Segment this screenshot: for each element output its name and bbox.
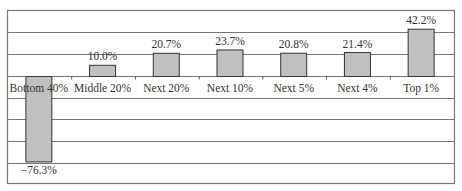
category-label: Next 10% [207,82,254,94]
category-label: Top 1% [403,82,439,95]
category-label: Next 5% [273,82,314,94]
category-labels: Bottom 40%Middle 20%Next 20%Next 10%Next… [10,82,440,95]
bars [26,29,434,162]
category-label: Middle 20% [74,82,132,94]
value-label: 10.0% [88,50,118,62]
category-label: Bottom 40% [10,82,69,94]
bar [90,65,116,76]
category-label: Next 4% [337,82,378,94]
bar [281,53,307,76]
value-label: 21.4% [343,38,373,50]
value-label: 23.7% [215,35,245,47]
bar [344,53,370,77]
bar [217,50,243,77]
bar-chart: Bottom 40%Middle 20%Next 20%Next 10%Next… [0,0,462,191]
bar [408,29,434,76]
value-label: 42.2% [406,14,436,26]
value-label: −76.3% [21,164,58,176]
bar [153,53,179,76]
value-label: 20.8% [279,38,309,50]
category-label: Next 20% [143,82,190,94]
value-label: 20.7% [151,38,181,50]
value-labels: −76.3%10.0%20.7%23.7%20.8%21.4%42.2% [21,14,437,176]
